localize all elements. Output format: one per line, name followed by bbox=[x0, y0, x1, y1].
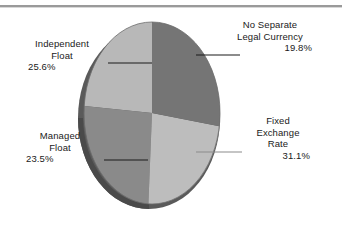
label-line-2: Float bbox=[14, 50, 110, 62]
label-line-3: Rate bbox=[232, 138, 324, 150]
slice-fixed-exchange-rate bbox=[148, 113, 219, 204]
label-line-2: Float bbox=[12, 142, 108, 154]
label-independent-float: Independent Float 25.6% bbox=[14, 38, 110, 73]
label-value: 25.6% bbox=[14, 61, 110, 73]
label-value: 31.1% bbox=[232, 150, 324, 162]
label-line-1: No Separate bbox=[214, 19, 326, 31]
label-line-1: Independent bbox=[14, 38, 110, 50]
label-line-2: Exchange bbox=[232, 127, 324, 139]
label-line-1: Fixed bbox=[232, 115, 324, 127]
slice-no-separate-legal-currency bbox=[152, 22, 220, 126]
label-no-separate-legal-currency: No Separate Legal Currency 19.8% bbox=[214, 19, 326, 54]
label-line-1: Managed bbox=[12, 130, 108, 142]
pie-chart-figure: No Separate Legal Currency 19.8% Fixed E… bbox=[0, 0, 342, 226]
label-value: 19.8% bbox=[214, 42, 326, 54]
label-value: 23.5% bbox=[12, 153, 108, 165]
label-managed-float: Managed Float 23.5% bbox=[12, 130, 108, 165]
label-fixed-exchange-rate: Fixed Exchange Rate 31.1% bbox=[232, 115, 324, 161]
label-line-2: Legal Currency bbox=[214, 31, 326, 43]
